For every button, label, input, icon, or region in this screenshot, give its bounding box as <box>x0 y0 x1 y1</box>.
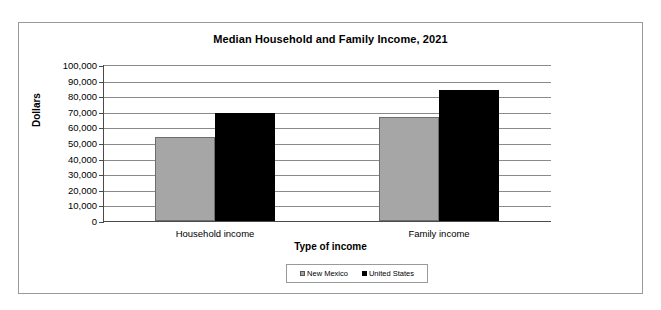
legend-label-united-states: United States <box>369 269 414 278</box>
y-axis-tick-label: 20,000 <box>68 186 97 196</box>
gridline <box>103 82 551 83</box>
y-axis-tick-mark <box>99 222 104 223</box>
legend-item-new-mexico: New Mexico <box>300 269 348 278</box>
chart-figure: Median Household and Family Income, 2021… <box>18 22 643 294</box>
chart-legend: New Mexico United States <box>286 264 428 283</box>
y-axis-tick-label: 30,000 <box>68 170 97 180</box>
y-axis-tick-label: 40,000 <box>68 155 97 165</box>
y-axis-tick-label: 80,000 <box>68 92 97 102</box>
bar-new-mexico-family-income <box>379 117 439 221</box>
bar-new-mexico-household-income <box>155 137 215 221</box>
y-axis-tick-mark <box>99 82 104 83</box>
bar-united-states-household-income <box>215 113 275 221</box>
legend-label-new-mexico: New Mexico <box>307 269 348 278</box>
bar-united-states-family-income <box>439 90 499 221</box>
legend-swatch-icon-new-mexico <box>300 271 305 276</box>
y-axis-tick-label: 90,000 <box>68 77 97 87</box>
y-axis-tick-label: 70,000 <box>68 108 97 118</box>
y-axis-tick-mark <box>99 66 104 67</box>
y-axis-tick-label: 60,000 <box>68 124 97 134</box>
y-axis-tick-mark <box>99 144 104 145</box>
category-label: Family income <box>408 228 469 239</box>
y-axis-tick-mark <box>99 191 104 192</box>
y-axis-tick-mark <box>99 175 104 176</box>
plot-top-border <box>103 65 551 66</box>
category-label: Household income <box>176 228 255 239</box>
x-axis-line <box>103 221 551 222</box>
y-axis-tick-mark <box>99 97 104 98</box>
y-axis-tick-mark <box>99 160 104 161</box>
plot-area: 100,00090,00080,00070,00060,00050,00040,… <box>103 65 551 222</box>
y-axis-title: Dollars <box>31 113 42 127</box>
y-axis-tick-mark <box>99 128 104 129</box>
y-axis-tick-label: 10,000 <box>68 202 97 212</box>
y-axis-tick-mark <box>99 113 104 114</box>
y-axis-tick-label: 0 <box>92 217 97 227</box>
legend-swatch-icon-united-states <box>362 271 367 276</box>
chart-title: Median Household and Family Income, 2021 <box>19 33 642 45</box>
x-axis-title: Type of income <box>19 241 642 252</box>
y-axis-tick-mark <box>99 206 104 207</box>
y-axis-tick-label: 50,000 <box>68 139 97 149</box>
legend-item-united-states: United States <box>362 269 414 278</box>
y-axis-tick-label: 100,000 <box>63 61 97 71</box>
